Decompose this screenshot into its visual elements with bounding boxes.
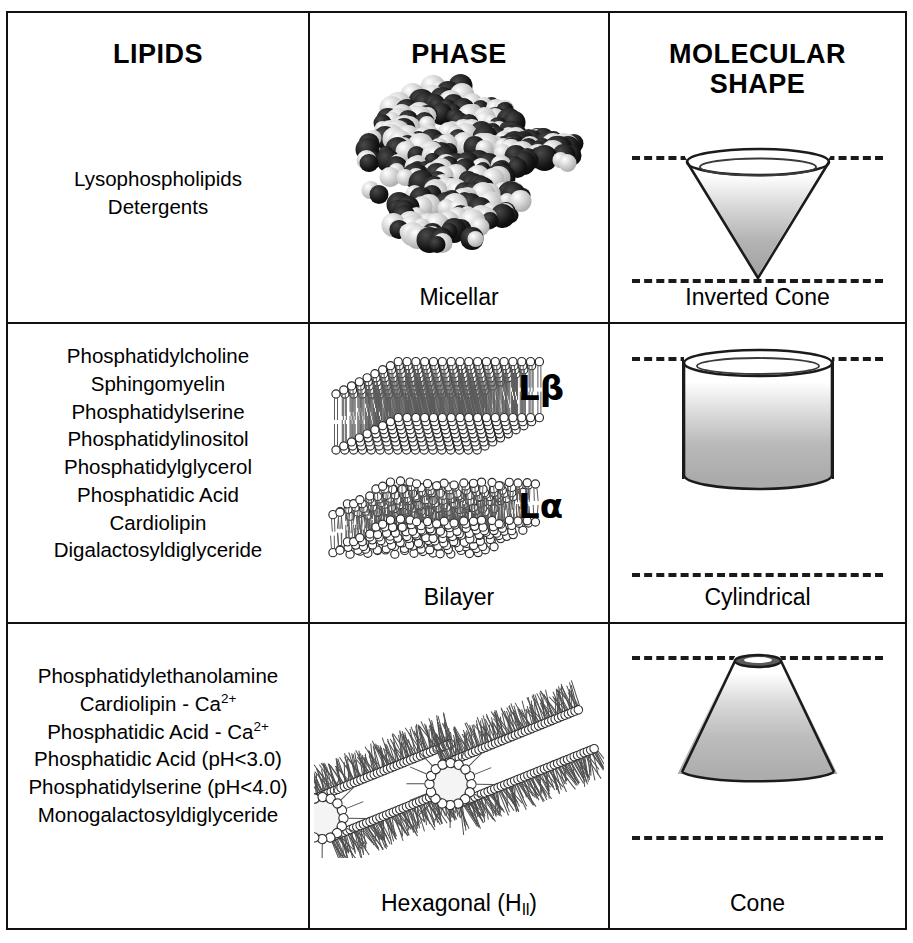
lipid-name: Phosphatidylserine (pH<4.0) bbox=[8, 773, 308, 801]
lipid-name: Detergents bbox=[8, 193, 308, 221]
cell-shape-inverted-cone: MOLECULAR SHAPE Inverted Cone bbox=[610, 13, 905, 324]
bilayer-slabs bbox=[310, 332, 610, 584]
cell-shape-cylinder: Cylindrical bbox=[610, 324, 905, 624]
cylinder-icon bbox=[682, 357, 834, 479]
lipid-name: Phosphatidic Acid bbox=[8, 481, 308, 509]
inverted-cone-outline bbox=[685, 156, 831, 282]
phase-label-l-alpha: Lα bbox=[518, 486, 563, 526]
lipid-list-bilayer: Phosphatidylcholine Sphingomyelin Phosph… bbox=[8, 342, 308, 564]
cell-phase-hexagonal: Hexagonal (HII) bbox=[310, 624, 610, 928]
lipid-name: Cardiolipin - Ca2+ bbox=[8, 690, 308, 718]
lipid-name: Lysophospholipids bbox=[8, 165, 308, 193]
figure-root: LIPIDS Lysophospholipids Detergents PHAS… bbox=[0, 0, 913, 943]
cell-lipids-bilayer: Phosphatidylcholine Sphingomyelin Phosph… bbox=[8, 324, 310, 624]
cell-shape-cone: Cone bbox=[610, 624, 905, 928]
dashed-guide-bottom bbox=[632, 573, 883, 577]
molecular-shape-line2: SHAPE bbox=[710, 69, 806, 99]
cell-lipids-micellar: LIPIDS Lysophospholipids Detergents bbox=[8, 13, 310, 324]
lipid-name: Phosphatidylcholine bbox=[8, 342, 308, 370]
shape-caption-cone: Cone bbox=[610, 890, 905, 917]
cell-phase-micellar: PHASE Micellar bbox=[310, 13, 610, 324]
cone-outline bbox=[678, 656, 838, 788]
phase-caption-micellar: Micellar bbox=[310, 284, 608, 311]
lipid-name: Monogalactosyldiglyceride bbox=[8, 801, 308, 829]
lipid-name: Cardiolipin bbox=[8, 509, 308, 537]
phase-label-l-beta: Lβ bbox=[518, 368, 564, 408]
phase-caption-hexagonal: Hexagonal (HII) bbox=[310, 890, 608, 917]
cell-phase-bilayer: Lβ Lα Bilayer bbox=[310, 324, 610, 624]
lipid-name: Phosphatidylethanolamine bbox=[8, 662, 308, 690]
molecular-shape-line1: MOLECULAR bbox=[669, 39, 846, 69]
lipid-name: Digalactosyldiglyceride bbox=[8, 536, 308, 564]
lipid-name: Phosphatidic Acid (pH<3.0) bbox=[8, 745, 308, 773]
hexagonal-tubes-icon bbox=[314, 678, 604, 858]
lipid-name: Phosphatidylserine bbox=[8, 398, 308, 426]
dashed-guide-bottom bbox=[632, 836, 883, 840]
lipid-list-hexagonal: Phosphatidylethanolamine Cardiolipin - C… bbox=[8, 662, 308, 829]
column-header-lipids: LIPIDS bbox=[8, 39, 308, 69]
lipid-name: Sphingomyelin bbox=[8, 370, 308, 398]
inverted-micelle-tubes bbox=[314, 678, 604, 858]
lipid-list-micellar: Lysophospholipids Detergents bbox=[8, 165, 308, 221]
shape-caption-cylindrical: Cylindrical bbox=[610, 584, 905, 611]
lipid-name: Phosphatidylinositol bbox=[8, 425, 308, 453]
micelle-icon bbox=[352, 65, 567, 270]
shape-caption-inverted-cone: Inverted Cone bbox=[610, 284, 905, 311]
cylinder-outline bbox=[682, 357, 834, 495]
phase-caption-bilayer: Bilayer bbox=[310, 584, 608, 611]
lipid-name: Phosphatidic Acid - Ca2+ bbox=[8, 718, 308, 746]
cell-lipids-hexagonal: Phosphatidylethanolamine Cardiolipin - C… bbox=[8, 624, 310, 928]
lipid-phase-table: LIPIDS Lysophospholipids Detergents PHAS… bbox=[6, 11, 907, 930]
lipid-name: Phosphatidylglycerol bbox=[8, 453, 308, 481]
inverted-cone-icon bbox=[685, 156, 831, 276]
column-header-molecular-shape: MOLECULAR SHAPE bbox=[610, 39, 905, 99]
cone-icon bbox=[678, 656, 838, 774]
